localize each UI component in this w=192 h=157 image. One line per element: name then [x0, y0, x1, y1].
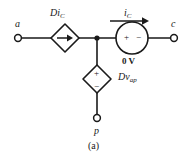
dep-voltage-label-sub: ap — [130, 76, 137, 84]
dependent-voltage-source-minus: − — [94, 82, 99, 91]
dep-voltage-label-main: Dv — [118, 71, 130, 82]
dependent-voltage-source-label: Dvap — [118, 72, 137, 82]
terminal-label-a: a — [15, 19, 20, 29]
zero-volt-source-minus: − — [136, 33, 141, 42]
figure-caption: (a) — [88, 141, 99, 151]
terminal-node-c — [171, 35, 178, 42]
dep-current-label-main: Di — [50, 7, 60, 18]
current-label-sub: C — [127, 12, 132, 20]
current-label: iC — [124, 8, 131, 18]
terminal-label-c: c — [171, 19, 175, 29]
terminal-label-p: p — [94, 126, 99, 136]
junction-dot — [94, 35, 99, 40]
zero-volt-source-plus: + — [124, 33, 129, 42]
dependent-current-source-label: DiC — [50, 8, 65, 18]
terminal-node-a — [15, 35, 22, 42]
zero-volt-source-value: 0 V — [122, 57, 135, 66]
dep-current-label-sub: C — [60, 12, 65, 20]
dependent-voltage-source-plus: + — [94, 69, 99, 78]
circuit-figure: a c p DiC iC + − 0 V + − Dvap (a) — [0, 0, 192, 157]
terminal-node-p — [94, 115, 101, 122]
zero-volt-source-circle — [116, 22, 148, 54]
